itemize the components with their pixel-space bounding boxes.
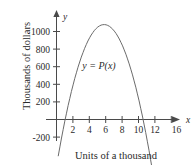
y-axis-arrow-icon: [53, 10, 59, 17]
x-tick-label-16: 16: [172, 125, 182, 135]
y-tick-label-200: 200: [36, 97, 51, 107]
y-tick-label-800: 800: [36, 45, 51, 55]
y-axis-caption: Thousands of dollars: [16, 6, 30, 126]
x-axis-caption: Units of a thousand: [56, 145, 176, 163]
y-axis-caption-text: Thousands of dollars: [21, 22, 32, 110]
x-axis-symbol: x: [185, 115, 191, 125]
x-tick-label-2: 2: [71, 125, 76, 135]
y-tick-label-600: 600: [36, 62, 51, 72]
profit-parabola-figure: 1000 800 600 400 200 -200 2 4 6 8 10 12 …: [0, 0, 196, 165]
y-axis-symbol: y: [62, 12, 68, 22]
x-tick-label-6: 6: [103, 125, 108, 135]
curve-equation-label: y = P(x): [81, 60, 116, 72]
x-tick-label-8: 8: [120, 125, 125, 135]
x-tick-label-4: 4: [87, 125, 92, 135]
profit-curve: [58, 25, 151, 165]
y-tick-label-400: 400: [36, 80, 51, 90]
y-tick-label-neg200: -200: [33, 133, 51, 143]
x-axis-caption-text: Units of a thousand: [75, 150, 157, 161]
x-axis-arrow-icon: [172, 116, 180, 122]
x-tick-label-10: 10: [134, 125, 144, 135]
y-tick-label-1000: 1000: [31, 27, 50, 37]
x-tick-label-12: 12: [150, 125, 160, 135]
